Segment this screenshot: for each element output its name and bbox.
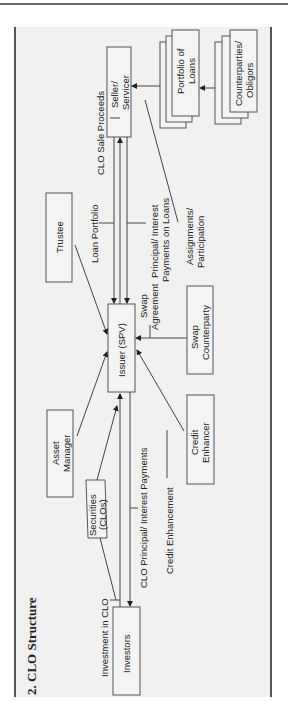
clo-structure-diagram: 2. CLO Structure Counterparties/ Obligor… [0, 0, 288, 727]
securities-clos-node: Securities (CLOs) [86, 480, 108, 538]
svg-text:Investors: Investors [121, 634, 132, 673]
svg-text:Swap: Swap [189, 325, 200, 349]
label-principal-interest-loans-2: Payments on Loans [160, 198, 171, 282]
label-credit-enhancement: Credit Enhancement [164, 487, 175, 574]
credit-enhancer-node: Credit Enhancer [187, 395, 214, 484]
svg-text:Counterparty: Counterparty [200, 305, 211, 360]
svg-text:Counterparties/: Counterparties/ [233, 41, 244, 106]
label-swap-agreement-2: Agreement [149, 283, 160, 330]
label-assignments-1: Assignments/ [184, 208, 195, 265]
issuer-spv-node: Issuer (SPV) [108, 304, 135, 392]
edge-labels: CLO Sale Proceeds Loan Portfolio Princip… [89, 91, 206, 677]
label-investment-in-clo: Investment in CLO [99, 598, 110, 677]
asset-manager-node: Asset Manager [47, 410, 73, 497]
svg-text:Manager: Manager [61, 435, 72, 473]
seller-servicer-node: Seller/ Servicer [107, 47, 131, 137]
svg-text:Credit: Credit [189, 429, 200, 455]
label-loan-portfolio: Loan Portfolio [89, 204, 100, 263]
swap-counterparty-node: Swap Counterparty [187, 286, 213, 374]
svg-text:Portfolio of: Portfolio of [175, 48, 186, 94]
label-clo-principal-interest: CLO Principal/ Interest Payments [138, 447, 149, 588]
svg-text:Enhancer: Enhancer [200, 422, 211, 463]
svg-text:Loans: Loans [186, 58, 197, 84]
label-principal-interest-loans-1: Principal/ Interest [149, 204, 160, 278]
label-swap-agreement-1: Swap [138, 294, 149, 318]
svg-text:(CLOs): (CLOs) [97, 499, 108, 530]
portfolio-of-loans-node: Portfolio of Loans [160, 30, 199, 128]
label-clo-sale-proceeds: CLO Sale Proceeds [95, 91, 106, 175]
svg-text:Trustee: Trustee [54, 221, 65, 253]
trustee-node: Trustee [46, 193, 72, 282]
svg-text:Obligors: Obligors [244, 62, 255, 98]
svg-text:Seller/: Seller/ [109, 81, 120, 108]
svg-text:Servicer: Servicer [120, 75, 131, 110]
section-title: 2. CLO Structure [24, 597, 39, 695]
investors-node: Investors [113, 607, 140, 695]
svg-text:Asset: Asset [50, 441, 61, 465]
svg-text:Issuer (SPV): Issuer (SPV) [116, 323, 127, 377]
counterparties-obligors-node: Counterparties/ Obligors [215, 30, 257, 124]
label-assignments-2: Participation [195, 216, 206, 268]
